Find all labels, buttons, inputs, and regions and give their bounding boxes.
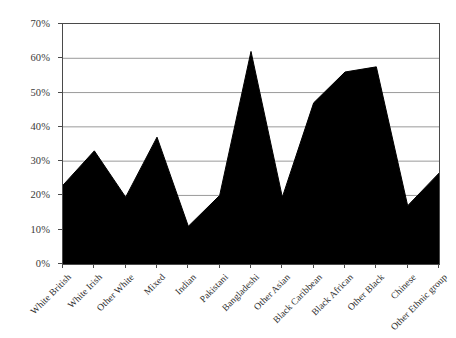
x-tick-mark: [313, 264, 314, 268]
y-tick-label: 40%: [30, 120, 50, 131]
x-tick-mark: [281, 264, 282, 268]
x-axis: White BritishWhite IrishOther WhiteMixed…: [0, 264, 456, 338]
x-tick-label: Indian: [174, 272, 199, 297]
x-tick-mark: [407, 264, 408, 268]
x-tick-mark: [219, 264, 220, 268]
chart-container: 0%10%20%30%40%50%60%70% White BritishWhi…: [0, 0, 456, 338]
y-tick-label: 70%: [30, 18, 50, 29]
x-tick-mark: [250, 264, 251, 268]
area-series: [63, 24, 439, 264]
y-axis: 0%10%20%30%40%50%60%70%: [0, 0, 58, 290]
x-tick-label: Chinese: [389, 272, 418, 301]
y-tick-label: 10%: [30, 223, 50, 234]
x-tick-mark: [344, 264, 345, 268]
y-tick-label: 20%: [30, 189, 50, 200]
x-tick-mark: [187, 264, 188, 268]
y-tick-label: 60%: [30, 52, 50, 63]
y-tick-label: 50%: [30, 86, 50, 97]
x-tick-mark: [93, 264, 94, 268]
y-tick-label: 30%: [30, 155, 50, 166]
x-tick-mark: [156, 264, 157, 268]
x-tick-mark: [62, 264, 63, 268]
x-tick-label: Other Ethnic group: [389, 272, 449, 332]
x-tick-mark: [375, 264, 376, 268]
plot-area: [62, 23, 440, 265]
x-tick-mark: [438, 264, 439, 268]
x-tick-mark: [125, 264, 126, 268]
x-tick-label: White British: [29, 272, 73, 316]
x-tick-label: Mixed: [142, 272, 167, 297]
